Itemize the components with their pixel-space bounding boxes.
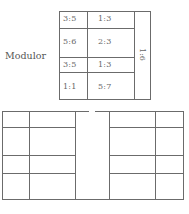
- plan-row: [109, 173, 184, 174]
- table-border-right: [150, 11, 151, 100]
- table-row-divider: [59, 57, 135, 58]
- plan-border-bottom: [2, 199, 110, 200]
- plan-row: [109, 155, 184, 156]
- cell-ratio: 3:5: [63, 60, 76, 69]
- cell-ratio: 1:3: [98, 14, 111, 23]
- table-row-divider: [59, 28, 135, 29]
- table-border-bottom: [59, 99, 151, 100]
- cell-ratio: 2:3: [98, 37, 111, 46]
- modulor-label: Modulor: [5, 50, 46, 61]
- table-border-top: [59, 11, 151, 12]
- table-row-divider: [59, 72, 135, 73]
- cell-ratio: 1:3: [98, 60, 111, 69]
- plan-row: [109, 127, 184, 128]
- table-side-divider: [134, 11, 135, 100]
- plan-row: [2, 173, 76, 174]
- cell-ratio: 3:5: [63, 14, 76, 23]
- table-border-left: [59, 11, 60, 100]
- cell-ratio: 1:1: [63, 82, 76, 91]
- cell-ratio: 5:7: [98, 82, 111, 91]
- plan-border-bottom: [109, 199, 184, 200]
- cell-ratio: 5:6: [63, 37, 76, 46]
- plan-row: [2, 127, 76, 128]
- side-ratio: 1:6: [138, 47, 147, 62]
- table-col-divider: [87, 11, 88, 100]
- plan-row: [2, 155, 76, 156]
